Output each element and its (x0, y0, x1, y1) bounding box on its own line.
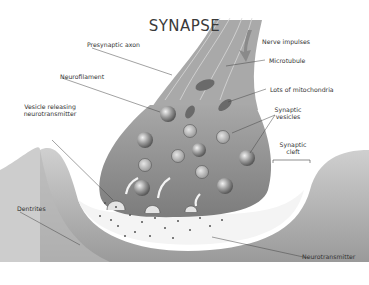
label-vesicle-releasing-line2: neurotransmitter (24, 110, 77, 117)
synaptic-cleft-bracket (273, 160, 310, 163)
label-nerve-impulses: Nerve impulses (262, 38, 310, 45)
label-synaptic-vesicles: Synaptic vesicles (270, 106, 306, 120)
synapse-illustration (0, 0, 369, 285)
label-microtubule: Microtubule (269, 57, 305, 64)
label-neurotransmitter: Neurotransmitter (302, 253, 355, 260)
synapse-diagram: SYNAPSE Presynaptic axon Nerve impulses … (0, 0, 369, 285)
label-synaptic-vesicles-line2: vesicles (276, 113, 301, 120)
label-synaptic-cleft-line1: Synaptic (280, 141, 307, 148)
label-synaptic-cleft-line2: cleft (286, 148, 299, 155)
label-vesicle-releasing-line1: Vesicle releasing (24, 103, 76, 110)
label-lots-of-mitochondria: Lots of mitochondria (270, 86, 334, 93)
label-dentrites: Dentrites (17, 205, 46, 212)
diagram-title: SYNAPSE (0, 17, 369, 35)
label-synaptic-cleft: Synaptic cleft (276, 141, 310, 155)
label-synaptic-vesicles-line1: Synaptic (275, 106, 302, 113)
label-presynaptic-axon: Presynaptic axon (87, 41, 140, 48)
label-vesicle-releasing: Vesicle releasing neurotransmitter (18, 103, 82, 117)
label-neurofilament: Neurofilament (60, 73, 104, 80)
